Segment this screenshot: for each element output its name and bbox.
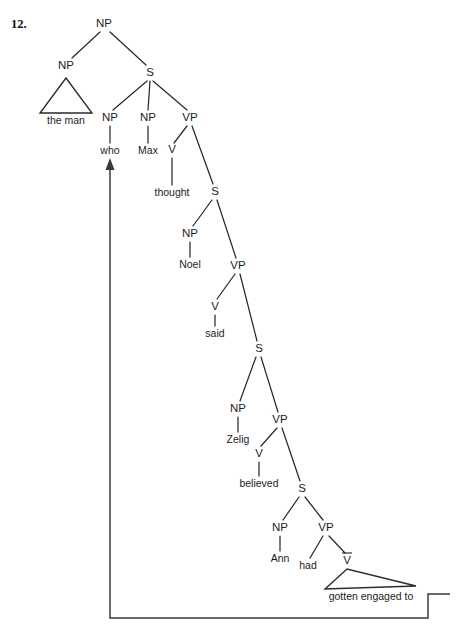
triangle-the-man bbox=[40, 78, 92, 113]
node-s-2: S bbox=[211, 185, 219, 197]
terminal-thought: thought bbox=[154, 186, 189, 198]
tree-triangles bbox=[40, 78, 416, 589]
terminal-who: who bbox=[99, 144, 119, 156]
terminal-ann: Ann bbox=[271, 552, 290, 564]
diagram-page: 12. bbox=[0, 0, 462, 635]
tree-node-labels: NP NP S NP NP VP V S NP VP V S NP VP V S… bbox=[58, 17, 351, 566]
branch-vp2-s3 bbox=[240, 274, 257, 341]
node-np-ann: NP bbox=[272, 521, 288, 533]
branch-vp4-had bbox=[310, 536, 323, 558]
node-np-noel: NP bbox=[182, 227, 198, 239]
branch-s1-vp1 bbox=[153, 81, 187, 110]
terminal-gotten-engaged-to: gotten engaged to bbox=[329, 590, 414, 602]
branch-s2-vp2 bbox=[217, 200, 236, 258]
branch-s3-vp3 bbox=[261, 357, 278, 412]
branch-nproot-s1 bbox=[110, 32, 146, 65]
branch-vp4-vbar bbox=[329, 536, 345, 553]
branch-s4-npann bbox=[283, 497, 299, 520]
branch-vp3-s4 bbox=[282, 428, 300, 481]
node-vp-3: VP bbox=[272, 413, 288, 425]
branch-vp2-vsaid bbox=[217, 274, 235, 299]
node-vp-2: VP bbox=[230, 259, 246, 271]
node-np-root: NP bbox=[96, 17, 112, 29]
node-s-4: S bbox=[298, 482, 306, 494]
triangle-gotten-engaged-to bbox=[325, 569, 416, 589]
terminal-believed: believed bbox=[239, 477, 278, 489]
terminal-had: had bbox=[299, 559, 317, 571]
branch-vp3-vbelieved bbox=[261, 428, 277, 446]
node-v-bar: V bbox=[343, 554, 351, 566]
terminal-said: said bbox=[205, 327, 224, 339]
terminal-zelig: Zelig bbox=[227, 433, 250, 445]
node-v-said: V bbox=[211, 300, 219, 312]
branch-s1-npmax bbox=[148, 81, 150, 110]
node-v-believed: V bbox=[255, 447, 263, 459]
node-s-3: S bbox=[255, 342, 263, 354]
syntax-tree-svg: NP NP S NP NP VP V S NP VP V S NP VP V S… bbox=[0, 0, 462, 635]
terminal-the-man: the man bbox=[47, 114, 85, 126]
tree-terminal-labels: the man who Max thought Noel said Zelig … bbox=[47, 114, 413, 602]
node-np-zelig: NP bbox=[230, 402, 246, 414]
node-vp-1: VP bbox=[182, 111, 198, 123]
terminal-max: Max bbox=[138, 144, 159, 156]
trace-arrowhead-icon bbox=[106, 158, 115, 170]
node-np-who: NP bbox=[102, 111, 118, 123]
movement-trace-path bbox=[106, 158, 451, 618]
branch-s3-npzelig bbox=[240, 357, 256, 401]
node-v-thought: V bbox=[168, 143, 176, 155]
branch-s4-vp4 bbox=[305, 497, 323, 520]
node-np-max: NP bbox=[140, 111, 156, 123]
branch-s2-npnoel bbox=[193, 200, 212, 226]
node-s-1: S bbox=[146, 66, 154, 78]
branch-nproot-npsubj bbox=[72, 32, 100, 58]
node-np-subject: NP bbox=[58, 59, 74, 71]
node-vp-4: VP bbox=[318, 521, 334, 533]
terminal-noel: Noel bbox=[179, 258, 201, 270]
branch-s1-npwho bbox=[113, 81, 147, 110]
branch-vp1-s2 bbox=[192, 126, 213, 184]
branch-vp1-vthought bbox=[174, 126, 187, 143]
